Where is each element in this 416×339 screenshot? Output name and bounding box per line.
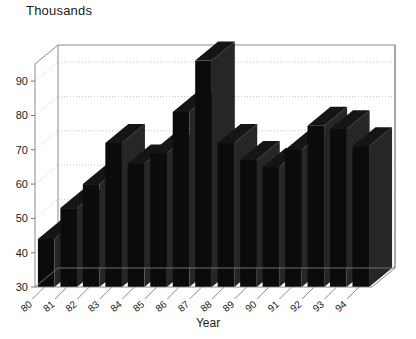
y-axis-tick-label: 30 xyxy=(16,281,28,293)
x-axis-tick-label: 81 xyxy=(41,298,57,314)
bar-front xyxy=(150,153,167,287)
bar-front xyxy=(105,143,122,287)
bar-front xyxy=(38,239,55,287)
bar-front xyxy=(330,129,347,287)
y-axis-ticks-group: 30405060708090 xyxy=(16,75,35,293)
chart-plot-area: 30405060708090 8081828384858687888990919… xyxy=(0,0,416,339)
y-axis-tick-label: 90 xyxy=(16,75,28,87)
x-axis-title: Year xyxy=(0,316,416,330)
bar-front xyxy=(308,126,325,287)
y-axis-tick-label: 70 xyxy=(16,144,28,156)
y-axis-tick-label: 60 xyxy=(16,178,28,190)
bars-group xyxy=(38,42,392,287)
x-axis-tick-label: 84 xyxy=(108,298,124,314)
x-axis-tick-label: 91 xyxy=(266,298,282,314)
x-axis-tick-label: 94 xyxy=(333,298,349,314)
x-axis-tick-label: 85 xyxy=(131,298,147,314)
bar-front xyxy=(285,150,302,287)
x-axis-tick-label: 87 xyxy=(176,298,192,314)
bar-front xyxy=(83,184,100,287)
bar-front xyxy=(173,112,190,287)
x-axis-tick-label: 90 xyxy=(243,298,259,314)
bar-front xyxy=(263,167,280,287)
bar-front xyxy=(352,146,369,287)
x-axis-tick-label: 80 xyxy=(18,298,34,314)
y-axis-tick-label: 50 xyxy=(16,212,28,224)
x-axis-tick-label: 88 xyxy=(198,298,214,314)
bar-front xyxy=(195,61,212,287)
x-axis-tick-label: 92 xyxy=(288,298,304,314)
bar-front xyxy=(60,208,77,287)
x-axis-tick-label: 86 xyxy=(153,298,169,314)
bar-side xyxy=(369,127,392,287)
y-axis-tick-label: 40 xyxy=(16,247,28,259)
chart-container: Thousands 30405060708090 808182838485868… xyxy=(0,0,416,339)
y-axis-tick-label: 80 xyxy=(16,109,28,121)
x-axis-tick-label: 82 xyxy=(63,298,79,314)
x-axis-tick-label: 83 xyxy=(86,298,102,314)
bar-front xyxy=(218,143,235,287)
x-axis-tick-label: 93 xyxy=(310,298,326,314)
x-axis-ticks-group: 808182838485868788899091929394 xyxy=(18,287,359,314)
bar-front xyxy=(128,163,145,287)
x-axis-tick-label: 89 xyxy=(221,298,237,314)
